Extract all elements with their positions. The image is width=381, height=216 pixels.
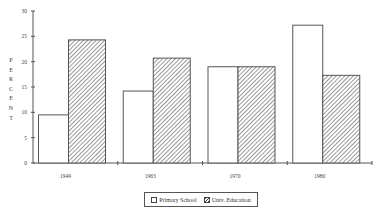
svg-text:N: N — [9, 105, 14, 111]
legend-label-primary: Primary School — [159, 197, 197, 203]
primary-school-bar — [123, 91, 153, 163]
legend-label-univ: Univ. Education — [212, 197, 251, 203]
legend-item-univ: Univ. Education — [204, 197, 251, 203]
legend-item-primary: Primary School — [151, 197, 197, 203]
y-tick-label: 25 — [22, 33, 28, 39]
svg-text:R: R — [9, 76, 13, 82]
univ-swatch-icon — [204, 197, 210, 203]
y-tick-label: 0 — [24, 160, 27, 166]
y-tick-label: 10 — [22, 109, 28, 115]
univ-education-bar — [153, 58, 190, 163]
x-tick-label: 1980 — [314, 173, 325, 179]
svg-text:P: P — [9, 57, 13, 63]
y-tick-label: 5 — [24, 135, 27, 141]
primary-school-bar — [39, 115, 69, 163]
univ-education-bar — [69, 40, 106, 163]
y-tick-label: 15 — [22, 84, 28, 90]
x-axis: 1949196319701980 — [33, 161, 372, 179]
svg-text:E: E — [9, 95, 13, 101]
bars — [39, 25, 360, 163]
legend: Primary School Univ. Education — [144, 192, 258, 207]
y-axis: 051015202530 — [22, 8, 36, 166]
x-tick-label: 1970 — [229, 173, 240, 179]
univ-education-bar — [238, 67, 275, 163]
x-tick-label: 1963 — [145, 173, 156, 179]
svg-text:C: C — [9, 86, 13, 92]
svg-text:T: T — [9, 115, 13, 121]
svg-text:E: E — [9, 67, 13, 73]
primary-school-bar — [208, 67, 238, 163]
univ-education-bar — [323, 75, 360, 163]
x-tick-label: 1949 — [60, 173, 71, 179]
y-axis-label: PERCENT — [9, 57, 14, 121]
y-tick-label: 20 — [22, 59, 28, 65]
primary-swatch-icon — [151, 197, 157, 203]
y-tick-label: 30 — [22, 8, 28, 14]
primary-school-bar — [293, 25, 323, 163]
bar-chart: 051015202530 1949196319701980 PERCENT — [0, 0, 381, 190]
